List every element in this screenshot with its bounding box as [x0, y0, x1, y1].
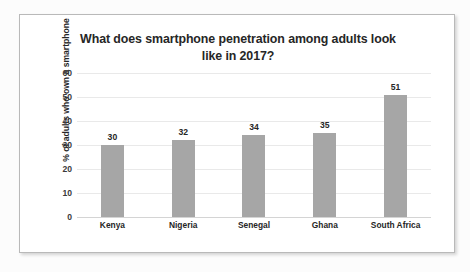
- x-axis-category-labels: KenyaNigeriaSenegalGhanaSouth Africa: [77, 220, 431, 230]
- bar-slot: 35: [289, 73, 360, 217]
- bar-slot: 32: [148, 73, 219, 217]
- y-axis-tick-label: 50: [62, 92, 72, 102]
- bar: [172, 140, 195, 217]
- bar: [242, 135, 265, 217]
- x-axis-category-label: Ghana: [289, 220, 360, 230]
- bar: [313, 133, 336, 217]
- bar-slot: 30: [77, 73, 148, 217]
- chart-frame: What does smartphone penetration among a…: [19, 14, 455, 253]
- y-axis-tick-label: 10: [62, 188, 72, 198]
- bar-value-label: 30: [108, 132, 118, 142]
- x-axis-category-label: Senegal: [219, 220, 290, 230]
- y-axis-tick-label: 20: [62, 164, 72, 174]
- x-axis-category-label: South Africa: [360, 220, 431, 230]
- y-axis-tick-label: 40: [62, 116, 72, 126]
- gridline: [77, 217, 431, 218]
- y-axis-tick-label: 0: [67, 212, 72, 222]
- bar-value-label: 51: [391, 82, 401, 92]
- y-axis-tick-label: 60: [62, 68, 72, 78]
- bar-value-label: 32: [178, 127, 188, 137]
- bar: [101, 145, 124, 217]
- chart-title: What does smartphone penetration among a…: [48, 31, 428, 65]
- bar-series: 3032343551: [77, 73, 431, 217]
- bar-value-label: 34: [249, 122, 259, 132]
- plot-area: 6050403020100 3032343551: [77, 73, 431, 217]
- bar-slot: 34: [219, 73, 290, 217]
- y-axis-tick-label: 30: [62, 140, 72, 150]
- bar-value-label: 35: [320, 120, 330, 130]
- x-axis-category-label: Nigeria: [148, 220, 219, 230]
- bar-slot: 51: [360, 73, 431, 217]
- chart-title-line-1: What does smartphone penetration among a…: [48, 31, 428, 48]
- screenshot-canvas: What does smartphone penetration among a…: [0, 0, 470, 272]
- bar: [384, 95, 407, 217]
- chart-title-line-2: like in 2017?: [48, 48, 428, 65]
- x-axis-category-label: Kenya: [77, 220, 148, 230]
